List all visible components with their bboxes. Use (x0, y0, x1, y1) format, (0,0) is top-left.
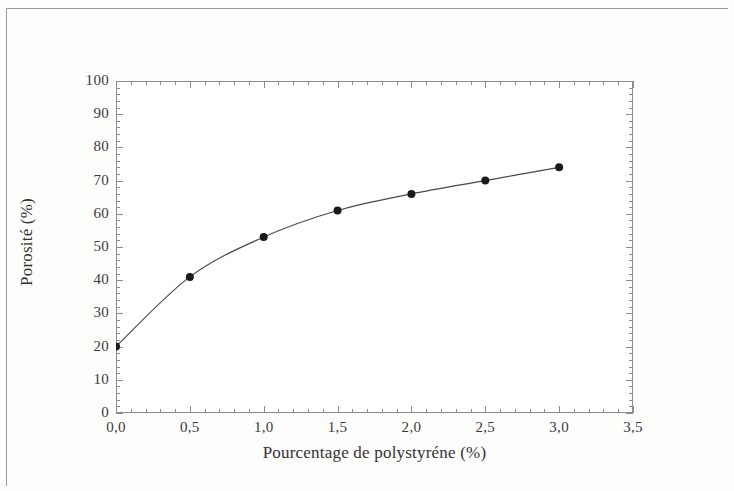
y-tick-right-minor (629, 94, 633, 95)
y-tick-label: 90 (69, 106, 109, 121)
y-tick-major (116, 380, 123, 381)
y-tick-label: 100 (69, 73, 109, 88)
y-tick-right-major (626, 280, 633, 281)
x-tick-minor (278, 409, 279, 413)
y-tick-right-minor (629, 300, 633, 301)
x-axis-title: Pourcentage de polystyréne (%) (116, 443, 633, 463)
y-tick-right-minor (629, 101, 633, 102)
x-tick-top-minor (456, 81, 457, 85)
x-tick-label: 1,0 (234, 419, 294, 435)
x-tick-top-major (559, 81, 560, 88)
y-tick-right-minor (629, 367, 633, 368)
x-tick-top-minor (544, 81, 545, 85)
x-tick-top-minor (352, 81, 353, 85)
x-tick-minor (131, 409, 132, 413)
y-tick-minor (116, 373, 120, 374)
x-tick-top-minor (249, 81, 250, 85)
x-tick-minor (515, 409, 516, 413)
x-tick-minor (500, 409, 501, 413)
y-tick-minor (116, 267, 120, 268)
y-tick-label: 30 (69, 305, 109, 320)
x-tick-minor (323, 409, 324, 413)
y-tick-minor (116, 167, 120, 168)
y-tick-right-minor (629, 207, 633, 208)
y-tick-minor (116, 121, 120, 122)
y-tick-right-major (626, 380, 633, 381)
x-tick-top-minor (500, 81, 501, 85)
y-tick-minor (116, 360, 120, 361)
y-tick-label: 50 (69, 239, 109, 254)
x-tick-minor (574, 409, 575, 413)
x-tick-top-minor (205, 81, 206, 85)
y-tick-major (116, 280, 123, 281)
y-tick-right-minor (629, 108, 633, 109)
y-tick-minor (116, 400, 120, 401)
x-tick-major (559, 406, 560, 413)
x-axis-tick-labels: 0,00,51,01,52,02,53,03,5 (116, 419, 633, 441)
y-tick-right-minor (629, 121, 633, 122)
y-tick-right-minor (629, 267, 633, 268)
y-tick-minor (116, 227, 120, 228)
y-tick-minor (116, 194, 120, 195)
x-tick-minor (603, 409, 604, 413)
y-tick-minor (116, 287, 120, 288)
y-tick-minor (116, 300, 120, 301)
x-tick-top-minor (471, 81, 472, 85)
x-tick-major (411, 406, 412, 413)
y-tick-right-minor (629, 287, 633, 288)
axis-ticks-layer (116, 81, 633, 413)
y-tick-minor (116, 207, 120, 208)
y-tick-major (116, 147, 123, 148)
y-tick-minor (116, 240, 120, 241)
y-tick-minor (116, 293, 120, 294)
y-tick-minor (116, 260, 120, 261)
y-tick-right-minor (629, 174, 633, 175)
x-tick-label: 2,0 (381, 419, 441, 435)
y-tick-right-minor (629, 260, 633, 261)
y-tick-right-minor (629, 167, 633, 168)
y-tick-minor (116, 174, 120, 175)
y-tick-minor (116, 386, 120, 387)
y-tick-right-minor (629, 134, 633, 135)
x-tick-top-minor (160, 81, 161, 85)
x-tick-minor (382, 409, 383, 413)
y-tick-right-minor (629, 141, 633, 142)
x-tick-minor (441, 409, 442, 413)
x-tick-minor (367, 409, 368, 413)
y-tick-right-major (626, 214, 633, 215)
x-tick-top-minor (367, 81, 368, 85)
y-axis-tick-labels: 0102030405060708090100 (64, 81, 109, 413)
x-tick-label: 0,0 (86, 419, 146, 435)
y-tick-right-minor (629, 201, 633, 202)
x-tick-minor (397, 409, 398, 413)
x-tick-label: 0,5 (160, 419, 220, 435)
y-tick-right-major (626, 181, 633, 182)
x-tick-top-minor (131, 81, 132, 85)
x-tick-top-minor (515, 81, 516, 85)
y-tick-right-major (626, 247, 633, 248)
x-tick-top-minor (278, 81, 279, 85)
x-tick-major (485, 406, 486, 413)
y-tick-minor (116, 108, 120, 109)
y-tick-right-minor (629, 154, 633, 155)
x-tick-top-minor (589, 81, 590, 85)
x-tick-top-minor (441, 81, 442, 85)
x-tick-minor (205, 409, 206, 413)
x-tick-minor (249, 409, 250, 413)
y-tick-major (116, 114, 123, 115)
y-tick-right-minor (629, 187, 633, 188)
x-tick-label: 3,0 (529, 419, 589, 435)
y-axis-title: Porosité (%) (17, 142, 37, 342)
y-tick-right-minor (629, 307, 633, 308)
y-tick-major (116, 347, 123, 348)
x-tick-major (338, 406, 339, 413)
x-tick-minor (471, 409, 472, 413)
x-tick-minor (352, 409, 353, 413)
x-tick-top-major (264, 81, 265, 88)
y-tick-right-major (626, 313, 633, 314)
y-tick-minor (116, 201, 120, 202)
x-tick-top-minor (618, 81, 619, 85)
x-tick-minor (175, 409, 176, 413)
x-tick-top-minor (397, 81, 398, 85)
y-tick-right-minor (629, 227, 633, 228)
